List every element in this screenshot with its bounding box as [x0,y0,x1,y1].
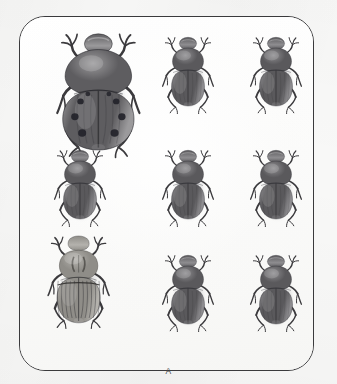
beetle-specimen-row2-col1 [52,143,108,229]
plate-label: A [0,366,337,376]
beetle-specimen-row3-col2 [160,248,216,334]
figure-plate-image: A [0,0,337,384]
specimen-grid [0,0,337,384]
beetle-specimen-row1-col3 [248,30,304,116]
beetle-specimen-row2-col3 [248,143,304,229]
beetle-specimen-row2-col2 [160,143,216,229]
beetle-specimen-row3-col3 [248,248,304,334]
beetle-specimen-row3-col1 [45,228,112,331]
beetle-specimen-row1-col2 [160,30,216,116]
beetle-specimen-row1-col1 [53,22,144,161]
